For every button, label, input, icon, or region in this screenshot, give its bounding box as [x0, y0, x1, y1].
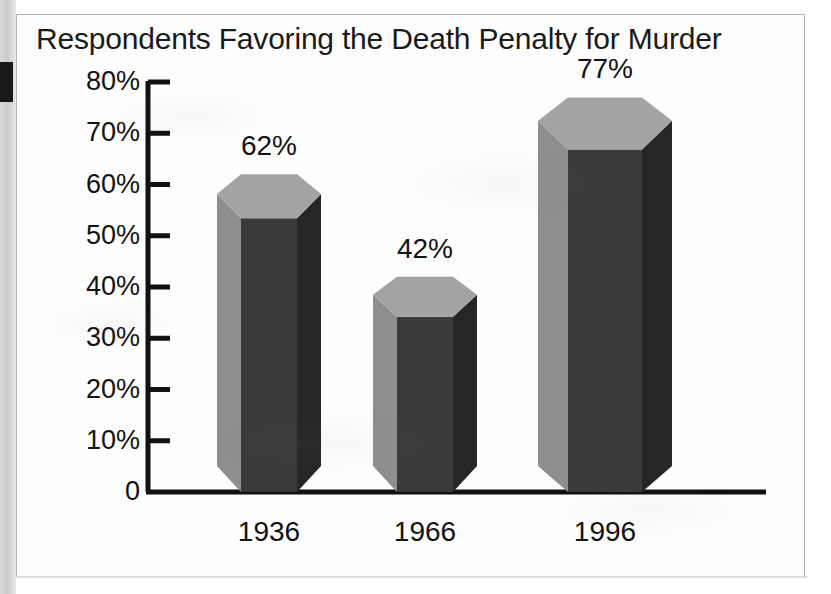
- bar-chart: Respondents Favoring the Death Penalty f…: [0, 0, 831, 594]
- bar-left-face: [538, 121, 568, 492]
- x-axis-category-label-1996: 1996: [535, 518, 675, 546]
- bar-value-label-1936: 62%: [199, 132, 339, 160]
- x-axis-category-label-1936: 1936: [199, 518, 339, 546]
- bar-1996[interactable]: [538, 97, 672, 492]
- bar-1936[interactable]: [217, 174, 321, 492]
- bar-1966[interactable]: [373, 277, 477, 492]
- bar-left-face: [373, 295, 397, 492]
- figure-page: Respondents Favoring the Death Penalty f…: [0, 0, 831, 594]
- bar-right-face: [453, 295, 477, 492]
- bar-value-label-1996: 77%: [535, 55, 675, 83]
- bar-right-face: [297, 194, 321, 492]
- bar-front-face: [397, 317, 453, 492]
- x-axis-category-label-1966: 1966: [355, 518, 495, 546]
- bar-front-face: [241, 218, 297, 492]
- bar-front-face: [568, 149, 642, 492]
- bar-value-label-1966: 42%: [355, 235, 495, 263]
- bar-left-face: [217, 194, 241, 492]
- bar-right-face: [642, 121, 672, 492]
- chart-axes: [0, 0, 831, 594]
